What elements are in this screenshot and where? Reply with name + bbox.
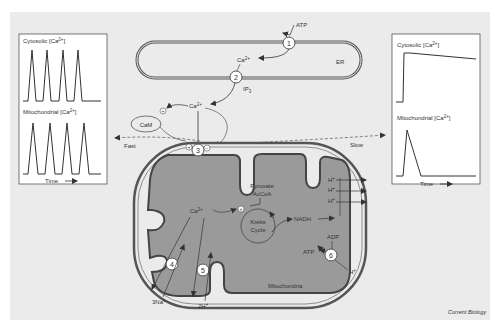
right-panel-frame xyxy=(392,34,480,184)
diagram-canvas: Cytosolic [Ca2+] Mitochondrial [Ca2+] Ti… xyxy=(0,0,497,335)
nadh-label: NADH xyxy=(294,216,311,222)
figure: Cytosolic [Ca2+] Mitochondrial [Ca2+] Ti… xyxy=(0,0,497,335)
na-ca-exchanger-4-number: 4 xyxy=(170,261,174,268)
fast-label: Fast xyxy=(124,143,136,149)
krebs-plus-sign: + xyxy=(240,206,243,212)
uniporter-plus-sign: + xyxy=(188,144,191,150)
right-time-label: Time xyxy=(420,181,434,187)
krebs-label: Krebs xyxy=(250,219,266,225)
acetyl-coa-label: AcCoA xyxy=(253,191,272,197)
pyruvate-label: Pyruvate xyxy=(250,183,274,189)
cam-label: CaM xyxy=(140,122,153,128)
cam-plus-sign: + xyxy=(162,108,165,114)
right-mitochondrial-label: Mitochondrial [Ca2+] xyxy=(397,114,451,121)
mitochondrion: Mitochondria 3 + − Ca2+ + Pyruvate AcCoA… xyxy=(134,143,366,309)
atp-synthase-6-number: 6 xyxy=(329,252,333,259)
uniporter-3-number: 3 xyxy=(196,147,200,154)
journal-credit: Current Biology xyxy=(448,309,487,315)
h-ca-exchanger-5-number: 5 xyxy=(201,267,205,274)
uniporter-minus-sign: − xyxy=(206,145,209,151)
left-time-label: Time xyxy=(45,178,59,184)
er-atp-label: ATP xyxy=(296,22,307,28)
pump-1-number: 1 xyxy=(287,40,291,47)
ip3-receptor-2-number: 2 xyxy=(234,74,238,81)
er-label: ER xyxy=(336,59,345,65)
atp-label: ATP xyxy=(303,249,314,255)
cycle-label: Cycle xyxy=(250,227,266,233)
right-panel: Cytosolic [Ca2+] Mitochondrial [Ca2+] Ti… xyxy=(392,34,480,187)
left-panel: Cytosolic [Ca2+] Mitochondrial [Ca2+] Ti… xyxy=(19,34,107,184)
left-mitochondrial-label: Mitochondrial [Ca2+] xyxy=(23,108,77,115)
slow-label: Slow xyxy=(350,142,364,148)
mitochondria-label: Mitochondria xyxy=(268,283,303,289)
adp-label: ADP xyxy=(327,234,339,240)
